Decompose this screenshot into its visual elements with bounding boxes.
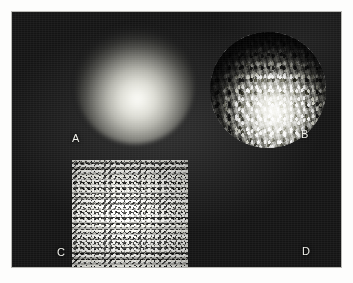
panel-label-b: B bbox=[301, 129, 309, 140]
panel-label-c: C bbox=[57, 247, 65, 258]
figure-root: A B C D bbox=[0, 0, 353, 283]
panel-c-texture-swatch bbox=[72, 160, 188, 267]
panel-label-a: A bbox=[72, 133, 80, 144]
figure-plate: A B C D bbox=[12, 12, 341, 267]
panel-c-shading-layer bbox=[72, 160, 188, 267]
panel-label-d: D bbox=[302, 246, 310, 257]
panel-a-smooth-sphere bbox=[76, 26, 194, 144]
